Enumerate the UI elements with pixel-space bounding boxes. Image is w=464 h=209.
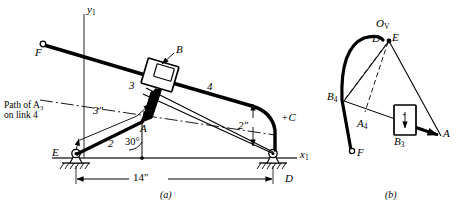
figure-container: + y1 x1 F E A B +C D 2 3 4 30° 3″ 2″ 14″… (0, 0, 464, 209)
svg-text:+: + (402, 111, 406, 119)
slider-block-B (141, 58, 179, 92)
velocity-vector-OV-A4 (365, 42, 388, 112)
caption-figure-b: (b) (385, 190, 397, 201)
caption-figure-a: (a) (160, 190, 172, 201)
diagram-b-group: + (342, 36, 441, 153)
label-link-3: 3 (129, 80, 135, 92)
label-velocity-point-D: D (372, 33, 380, 45)
label-dimension-3in: 3″ (93, 105, 103, 117)
label-x1-axis: x1 (300, 149, 309, 162)
velocity-slider-block-B3: + (394, 105, 416, 135)
label-point-E: E (52, 147, 59, 159)
label-point-F: F (35, 47, 42, 59)
diagram-a-group (40, 14, 297, 184)
velocity-point-F (349, 148, 354, 153)
velocity-link4-curve (342, 36, 383, 150)
ground-support-D (257, 163, 287, 169)
caption-path-of-A3: Path of A3 on link 4 (4, 101, 43, 121)
label-velocity-point-A: A (443, 128, 450, 140)
coupler-thin-line-upper (146, 88, 273, 152)
label-point-D: D (285, 173, 293, 185)
label-link-2: 2 (108, 138, 114, 150)
label-angle-30: 30° (125, 136, 140, 147)
label-velocity-point-B3: B3 (394, 136, 404, 149)
dimension-14in (76, 166, 273, 184)
label-velocity-point-B4: B4 (327, 91, 337, 104)
label-dimension-2in: 2″ (238, 120, 248, 132)
label-velocity-pole-OV: OV (376, 18, 389, 31)
label-dimension-14in: 14″ (133, 172, 149, 184)
label-y1-axis: y1 (87, 4, 96, 17)
label-velocity-point-E: E (392, 32, 399, 44)
point-mark-ground (140, 156, 143, 159)
ground-support-E (60, 163, 90, 169)
label-link-4: 4 (207, 81, 213, 93)
label-velocity-point-A4: A4 (357, 118, 367, 131)
label-point-C: +C (281, 112, 296, 124)
label-point-A: A (140, 123, 147, 135)
label-point-B: B (176, 44, 183, 56)
label-velocity-point-F: F (357, 147, 364, 159)
leader-B (162, 53, 174, 64)
